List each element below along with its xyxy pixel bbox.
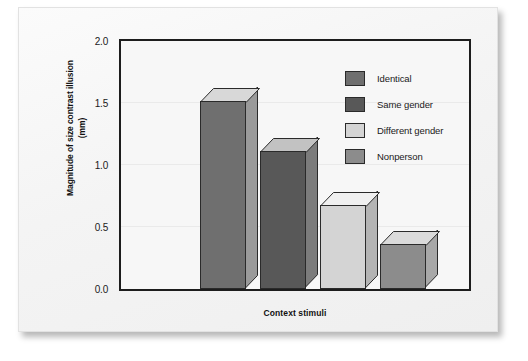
plot-area: IdenticalSame genderDifferent genderNonp…	[119, 39, 471, 291]
bar-side-face	[244, 86, 259, 289]
bar	[320, 192, 379, 289]
legend-swatch	[345, 71, 365, 86]
bar-front-face	[260, 151, 306, 289]
bar	[380, 231, 439, 289]
legend-item[interactable]: Same gender	[345, 93, 443, 115]
figure-card: Magnitude of size contrast illusion (mm)…	[18, 7, 498, 332]
legend-item[interactable]: Different gender	[345, 119, 443, 141]
legend-label: Nonperson	[377, 151, 423, 162]
legend-item[interactable]: Identical	[345, 67, 443, 89]
chart-legend: IdenticalSame genderDifferent genderNonp…	[345, 67, 443, 171]
bar	[200, 88, 259, 289]
legend-label: Same gender	[377, 99, 433, 110]
bar-front-face	[380, 244, 426, 289]
y-tick-label: 2.0	[74, 36, 108, 47]
bar	[260, 138, 319, 289]
legend-item[interactable]: Nonperson	[345, 145, 443, 167]
legend-swatch	[345, 97, 365, 112]
bar-front-face	[320, 205, 366, 289]
x-axis-title: Context stimuli	[119, 308, 471, 318]
legend-swatch	[345, 123, 365, 138]
bar-side-face	[304, 136, 319, 289]
y-tick-label: 0.0	[74, 284, 108, 295]
y-tick-label: 1.5	[74, 98, 108, 109]
legend-label: Identical	[377, 73, 411, 84]
y-tick-label: 0.5	[74, 222, 108, 233]
bar-front-face	[200, 101, 246, 289]
y-axis-tick-labels: 2.01.51.00.50.0	[74, 8, 108, 333]
y-tick-label: 1.0	[74, 160, 108, 171]
legend-swatch	[345, 149, 365, 164]
plot-inner: IdenticalSame genderDifferent genderNonp…	[121, 41, 469, 289]
legend-label: Different gender	[377, 125, 443, 136]
